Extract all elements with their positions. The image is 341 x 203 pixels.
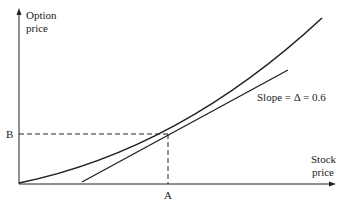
point-a-label: A	[164, 189, 172, 201]
y-axis-label-line1: Option	[26, 9, 57, 21]
y-axis-label-line2: price	[26, 22, 48, 34]
tangent-line	[82, 70, 288, 182]
x-axis-label-line2: price	[312, 166, 334, 178]
slope-label: Slope = Δ = 0.6	[257, 91, 326, 103]
y-axis-arrow	[17, 8, 22, 15]
x-axis-label-line1: Stock	[311, 153, 336, 165]
point-b-label: B	[6, 128, 13, 140]
x-axis-arrow	[329, 182, 336, 187]
